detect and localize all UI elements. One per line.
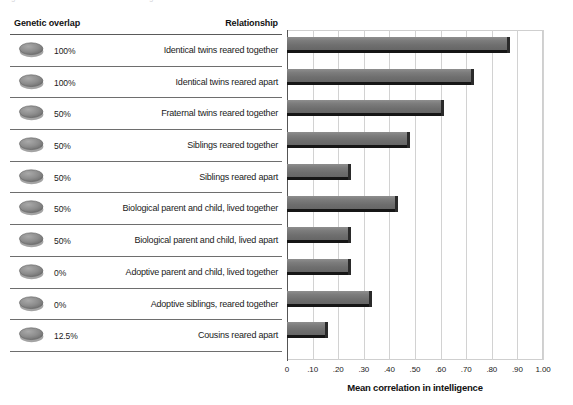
bar-end-cap (407, 132, 410, 148)
x-tick-label: .30 (358, 365, 369, 374)
relationship-table: Genetic overlap Relationship 100%Identic… (10, 18, 282, 32)
genetic-overlap-value: 50% (54, 141, 71, 151)
column-header-relationship: Relationship (225, 18, 278, 28)
table-row: 50%Siblings reared apart (10, 162, 282, 194)
bar-row (287, 93, 543, 125)
bar-end-cap (395, 196, 398, 212)
gray-disc-icon (16, 168, 50, 189)
bar-end-cap (471, 69, 474, 85)
relationship-label: Adoptive parent and child, lived togethe… (126, 267, 278, 277)
gridline (543, 30, 544, 360)
table-row: 100%Identical twins reared apart (10, 67, 282, 99)
table-row: 50%Biological parent and child, lived to… (10, 193, 282, 225)
relationship-label: Biological parent and child, lived toget… (122, 203, 278, 213)
relationship-label: Fraternal twins reared together (161, 108, 278, 118)
bar-end-cap (348, 227, 351, 243)
gray-disc-icon (16, 263, 50, 284)
table-row: 100%Identical twins reared together (10, 35, 282, 67)
relationship-label: Identical twins reared together (164, 45, 278, 55)
bar-end-cap (348, 259, 351, 275)
relationship-label: Biological parent and child, lived apart (134, 235, 278, 245)
bar (287, 164, 348, 177)
gray-disc-icon (16, 136, 50, 157)
x-axis-ticks: 0.10.20.30.40.50.60.70.80.901.00 (287, 365, 543, 379)
cut-off-caption: Figure · Genetic relatedness and intelli… (0, 0, 573, 14)
x-tick-label: .90 (512, 365, 523, 374)
genetic-overlap-value: 50% (54, 204, 71, 214)
table-header: Genetic overlap Relationship (10, 18, 282, 32)
table-row: 0%Adoptive parent and child, lived toget… (10, 257, 282, 289)
genetic-overlap-value: 50% (54, 109, 71, 119)
gray-disc-icon (16, 326, 50, 347)
bar (287, 259, 348, 272)
genetic-overlap-value: 0% (54, 268, 66, 278)
genetic-overlap-value: 50% (54, 173, 71, 183)
table-row: 50%Biological parent and child, lived ap… (10, 225, 282, 257)
gray-disc-icon (16, 41, 50, 62)
bar-end-cap (325, 322, 328, 338)
figure-root: Figure · Genetic relatedness and intelli… (0, 0, 573, 405)
bar-row (287, 125, 543, 157)
relationship-label: Siblings reared together (187, 140, 278, 150)
bar-end-cap (507, 37, 510, 53)
relationship-label: Cousins reared apart (198, 330, 278, 340)
bar-row (287, 315, 543, 347)
x-tick-label: 1.00 (535, 365, 550, 374)
gray-disc-icon (16, 73, 50, 94)
relationship-label: Adoptive siblings, reared together (151, 299, 278, 309)
table-row: 0%Adoptive siblings, reared together (10, 289, 282, 321)
genetic-overlap-value: 100% (54, 78, 75, 88)
x-tick-label: .50 (410, 365, 421, 374)
relationship-label: Siblings reared apart (199, 172, 278, 182)
genetic-overlap-value: 0% (54, 300, 66, 310)
gray-disc-icon (16, 199, 50, 220)
column-header-genetic-overlap: Genetic overlap (14, 18, 80, 28)
x-tick-label: .80 (486, 365, 497, 374)
bar-row (287, 30, 543, 62)
table-row: 50%Siblings reared together (10, 130, 282, 162)
bar-row (287, 284, 543, 316)
bar-row (287, 220, 543, 252)
gray-disc-icon (16, 231, 50, 252)
genetic-overlap-value: 50% (54, 236, 71, 246)
x-tick-label: .60 (435, 365, 446, 374)
x-axis-label: Mean correlation in intelligence (287, 382, 543, 393)
bar-end-cap (348, 164, 351, 180)
bar (287, 69, 471, 82)
bar-row (287, 189, 543, 221)
bar (287, 100, 441, 113)
bar-row (287, 62, 543, 94)
cut-off-caption-text: Figure · Genetic relatedness and intelli… (4, 0, 573, 2)
bar (287, 196, 395, 209)
table-row: 12.5%Cousins reared apart (10, 320, 282, 352)
bar-row (287, 157, 543, 189)
x-tick-label: .20 (333, 365, 344, 374)
genetic-overlap-value: 100% (54, 46, 75, 56)
x-tick-label: 0 (285, 365, 289, 374)
x-tick-label: .10 (307, 365, 318, 374)
bar-chart: 0.10.20.30.40.50.60.70.80.901.00 Mean co… (287, 30, 543, 360)
table-body: 100%Identical twins reared together100%I… (10, 34, 282, 352)
table-row: 50%Fraternal twins reared together (10, 98, 282, 130)
bar (287, 132, 407, 145)
bar (287, 227, 348, 240)
genetic-overlap-value: 12.5% (54, 331, 78, 341)
x-tick-label: .70 (461, 365, 472, 374)
bar-end-cap (441, 100, 444, 116)
relationship-label: Identical twins reared apart (176, 77, 278, 87)
bar (287, 291, 369, 304)
bar (287, 322, 325, 335)
x-tick-label: .40 (384, 365, 395, 374)
bar (287, 37, 507, 50)
gray-disc-icon (16, 295, 50, 316)
gray-disc-icon (16, 104, 50, 125)
bar-end-cap (369, 291, 372, 307)
bar-row (287, 252, 543, 284)
